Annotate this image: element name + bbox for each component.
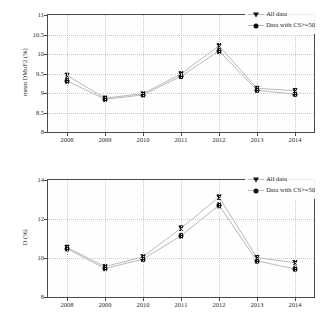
gridline-vertical [181, 15, 182, 132]
gridline-vertical [105, 180, 106, 297]
x-axis-tick-label: 2010 [137, 137, 150, 144]
y-axis-tick-label: 8 [41, 129, 44, 136]
y-axis-tick [44, 54, 48, 55]
y-axis-tick-label: 9 [41, 90, 44, 97]
y-axis-tick-label: 10 [38, 255, 45, 262]
x-axis-tick-label: 2014 [289, 302, 302, 309]
y-axis-tick [44, 258, 48, 259]
y-axis-tick-label: 10.5 [33, 31, 44, 38]
circle-icon [248, 21, 264, 30]
x-axis-tick-label: 2013 [251, 137, 264, 144]
x-axis-tick-label: 2009 [99, 302, 112, 309]
y-axis-tick-label: 8.5 [36, 109, 44, 116]
y-axis-tick [44, 93, 48, 94]
y-axis-tick [44, 35, 48, 36]
legend-top: All data Data with CS>=50 [245, 6, 319, 34]
y-axis-label-top: mean DMoF2 (%) [22, 48, 29, 96]
gridline-vertical [67, 15, 68, 132]
x-axis-tick-label: 2008 [61, 302, 74, 309]
legend-item-cs-data[interactable]: Data with CS>=50 [248, 185, 315, 196]
x-axis-tick-label: 2013 [251, 302, 264, 309]
x-axis-tick-label: 2008 [61, 137, 74, 144]
figure-container: mean DMoF2 (%) 88.599.51010.511200820092… [0, 0, 325, 330]
y-axis-tick-label: 8 [41, 294, 44, 301]
gridline-vertical [105, 15, 106, 132]
gridline-vertical [143, 15, 144, 132]
legend-label-cs-data: Data with CS>=50 [264, 22, 315, 29]
legend-label-cs-data: Data with CS>=50 [264, 187, 315, 194]
y-axis-tick-label: 14 [38, 177, 45, 184]
y-axis-tick-label: 11 [38, 12, 44, 19]
x-axis-tick-label: 2012 [213, 302, 226, 309]
y-axis-tick [44, 219, 48, 220]
gridline-vertical [219, 180, 220, 297]
gridline-vertical [67, 180, 68, 297]
gridline-vertical [181, 180, 182, 297]
triangle-down-icon [248, 10, 264, 19]
legend-bottom: All data Data with CS>=50 [245, 171, 319, 199]
y-axis-tick [44, 297, 48, 298]
x-axis-tick-label: 2010 [137, 302, 150, 309]
chart-panel-mean-dmof2: mean DMoF2 (%) 88.599.51010.511200820092… [0, 0, 325, 165]
legend-label-all-data: All data [264, 11, 287, 18]
y-axis-tick [44, 132, 48, 133]
x-axis-tick-label: 2011 [175, 302, 188, 309]
legend-item-all-data[interactable]: All data [248, 9, 315, 20]
y-axis-tick [44, 15, 48, 16]
legend-item-all-data[interactable]: All data [248, 174, 315, 185]
y-axis-tick-label: 9.5 [36, 70, 44, 77]
chart-panel-d-percent: D (%) 8101214200820092010201120122013201… [0, 165, 325, 330]
gridline-vertical [143, 180, 144, 297]
y-axis-tick [44, 74, 48, 75]
legend-item-cs-data[interactable]: Data with CS>=50 [248, 20, 315, 31]
triangle-down-icon [248, 175, 264, 184]
legend-label-all-data: All data [264, 176, 287, 183]
y-axis-tick [44, 113, 48, 114]
x-axis-tick-label: 2014 [289, 137, 302, 144]
y-axis-tick-label: 10 [38, 51, 45, 58]
x-axis-tick-label: 2009 [99, 137, 112, 144]
x-axis-tick-label: 2011 [175, 137, 188, 144]
x-axis-tick-label: 2012 [213, 137, 226, 144]
y-axis-tick-label: 12 [38, 216, 45, 223]
gridline-vertical [219, 15, 220, 132]
y-axis-label-bottom: D (%) [22, 229, 29, 245]
circle-icon [248, 186, 264, 195]
y-axis-tick [44, 180, 48, 181]
